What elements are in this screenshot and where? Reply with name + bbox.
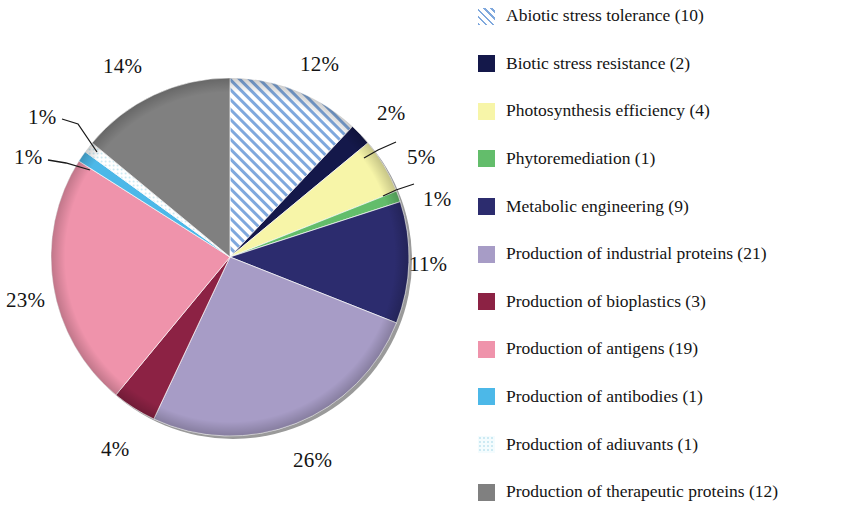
pct-label-metabolic-engineering: 11% (409, 252, 447, 277)
legend-label-production-of-therapeutic-proteins: Production of therapeutic proteins (12) (506, 483, 778, 501)
legend-label-production-of-antibodies: Production of antibodies (1) (506, 388, 703, 406)
legend-swatch-production-of-industrial-proteins-icon (478, 246, 495, 263)
legend-item-production-of-industrial-proteins[interactable]: Production of industrial proteins (21) (478, 241, 767, 267)
legend-label-production-of-antigens: Production of antigens (19) (506, 340, 698, 358)
legend-swatch-production-of-bioplastics-icon (478, 293, 495, 310)
pct-label-production-of-therapeutic-proteins: 14% (103, 54, 142, 79)
legend-item-production-of-bioplastics[interactable]: Production of bioplastics (3) (478, 289, 706, 315)
pct-label-biotic-stress-resistance: 2% (377, 101, 405, 126)
legend-label-biotic-stress-resistance: Biotic stress resistance (2) (506, 55, 690, 73)
pct-label-production-of-antibodies: 1% (14, 145, 42, 170)
legend-label-metabolic-engineering: Metabolic engineering (9) (506, 198, 689, 216)
legend-swatch-production-of-antigens-icon (478, 341, 495, 358)
legend-item-photosynthesis-efficiency[interactable]: Photosynthesis efficiency (4) (478, 98, 710, 124)
pct-label-production-of-antigens: 23% (6, 288, 45, 313)
pie-edge-shading (51, 78, 409, 436)
pie-slices (51, 78, 412, 439)
legend-item-production-of-therapeutic-proteins[interactable]: Production of therapeutic proteins (12) (478, 479, 778, 505)
pct-label-production-of-industrial-proteins: 26% (293, 448, 332, 473)
legend-item-production-of-antigens[interactable]: Production of antigens (19) (478, 336, 698, 362)
legend-swatch-production-of-therapeutic-proteins-icon (478, 484, 495, 501)
legend-item-biotic-stress-resistance[interactable]: Biotic stress resistance (2) (478, 51, 690, 77)
pct-label-production-of-bioplastics: 4% (101, 437, 129, 462)
pct-label-abiotic-stress-tolerance: 12% (300, 52, 339, 77)
legend-label-photosynthesis-efficiency: Photosynthesis efficiency (4) (506, 102, 710, 120)
legend-swatch-phytoremediation-icon (478, 150, 495, 167)
legend-swatch-production-of-adiuvants-icon (478, 436, 495, 453)
legend-swatch-production-of-antibodies-icon (478, 388, 495, 405)
legend-item-production-of-antibodies[interactable]: Production of antibodies (1) (478, 384, 703, 410)
pct-label-phytoremediation: 1% (423, 187, 451, 212)
legend-item-production-of-adiuvants[interactable]: Production of adiuvants (1) (478, 431, 698, 457)
legend-label-production-of-industrial-proteins: Production of industrial proteins (21) (506, 245, 767, 263)
legend-item-phytoremediation[interactable]: Phytoremediation (1) (478, 146, 655, 172)
pie-chart-figure: 12%2%5%1%11%26%4%23%1%1%14% Abiotic stre… (0, 0, 860, 523)
legend-swatch-abiotic-stress-tolerance-icon (478, 8, 495, 25)
legend-label-production-of-bioplastics: Production of bioplastics (3) (506, 293, 706, 311)
pct-label-photosynthesis-efficiency: 5% (407, 145, 435, 170)
pct-label-production-of-adiuvants: 1% (28, 105, 56, 130)
legend-item-abiotic-stress-tolerance[interactable]: Abiotic stress tolerance (10) (478, 3, 704, 29)
chart-legend: Abiotic stress tolerance (10)Biotic stre… (478, 0, 860, 523)
legend-item-metabolic-engineering[interactable]: Metabolic engineering (9) (478, 193, 689, 219)
pie-svg (0, 0, 470, 523)
legend-label-production-of-adiuvants: Production of adiuvants (1) (506, 436, 698, 454)
legend-swatch-biotic-stress-resistance-icon (478, 55, 495, 72)
legend-swatch-metabolic-engineering-icon (478, 198, 495, 215)
legend-label-abiotic-stress-tolerance: Abiotic stress tolerance (10) (506, 7, 704, 25)
legend-swatch-photosynthesis-efficiency-icon (478, 103, 495, 120)
pie-plot-area: 12%2%5%1%11%26%4%23%1%1%14% (0, 0, 470, 523)
legend-label-phytoremediation: Phytoremediation (1) (506, 150, 655, 168)
